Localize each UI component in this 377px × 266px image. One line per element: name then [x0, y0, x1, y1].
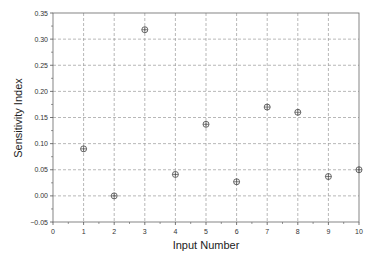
y-tick-label: 0.15 — [34, 114, 48, 121]
x-tick-label: 8 — [296, 228, 300, 235]
data-points — [81, 27, 362, 199]
x-axis: 012345678910 — [51, 222, 363, 235]
x-tick-label: 10 — [355, 228, 363, 235]
data-point — [81, 146, 87, 152]
y-tick-label: 0.10 — [34, 140, 48, 147]
x-axis-label: Input Number — [173, 239, 240, 251]
y-tick-label: 0.25 — [34, 62, 48, 69]
sensitivity-scatter-chart: −0.050.000.050.100.150.200.250.300.35 01… — [0, 0, 377, 266]
data-point — [264, 104, 270, 110]
y-tick-label: 0.30 — [34, 36, 48, 43]
y-axis: −0.050.000.050.100.150.200.250.300.35 — [30, 10, 53, 226]
x-tick-label: 2 — [112, 228, 116, 235]
y-tick-label: 0.00 — [34, 192, 48, 199]
x-tick-label: 3 — [143, 228, 147, 235]
data-point — [295, 109, 301, 115]
grid-lines — [53, 13, 359, 222]
x-tick-label: 1 — [82, 228, 86, 235]
y-tick-label: 0.20 — [34, 88, 48, 95]
data-point — [234, 179, 240, 185]
y-tick-label: −0.05 — [30, 219, 48, 226]
data-point — [142, 27, 148, 33]
data-point — [203, 121, 209, 127]
y-tick-label: 0.05 — [34, 166, 48, 173]
data-point — [325, 174, 331, 180]
x-tick-label: 9 — [326, 228, 330, 235]
data-point — [111, 193, 117, 199]
x-tick-label: 7 — [265, 228, 269, 235]
y-tick-label: 0.35 — [34, 10, 48, 17]
x-tick-label: 5 — [204, 228, 208, 235]
x-tick-label: 4 — [173, 228, 177, 235]
x-tick-label: 0 — [51, 228, 55, 235]
data-point — [356, 167, 362, 173]
data-point — [172, 171, 178, 177]
x-tick-label: 6 — [235, 228, 239, 235]
y-axis-label: Sensitivity Index — [12, 78, 24, 158]
